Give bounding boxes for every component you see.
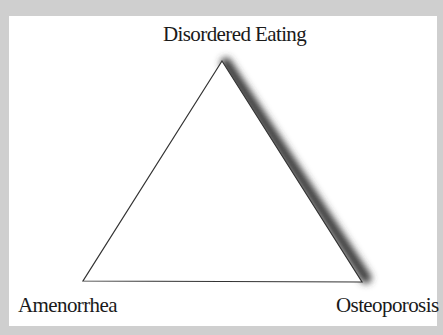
label-osteoporosis: Osteoporosis bbox=[336, 295, 438, 316]
triangle-diagram bbox=[0, 0, 443, 335]
label-amenorrhea: Amenorrhea bbox=[18, 295, 117, 316]
triangle-shape bbox=[83, 61, 362, 282]
label-disordered-eating: Disordered Eating bbox=[163, 24, 306, 45]
